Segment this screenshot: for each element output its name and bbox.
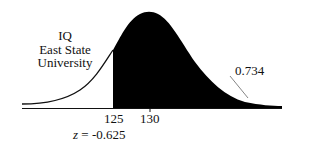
title-line-3: University: [30, 56, 100, 70]
x-tick-label-125: 125: [104, 111, 124, 126]
z-score-label: z = -0.625: [73, 127, 125, 142]
title-line-1: IQ: [30, 29, 100, 43]
shaded-area: [113, 12, 282, 108]
z-value: = -0.625: [78, 127, 125, 142]
title-line-2: East State: [30, 43, 100, 57]
x-tick-label-130: 130: [140, 111, 160, 126]
area-leader-line: [230, 76, 248, 98]
shaded-area-label: 0.734: [235, 63, 264, 78]
chart-title: IQ East State University: [30, 29, 100, 70]
